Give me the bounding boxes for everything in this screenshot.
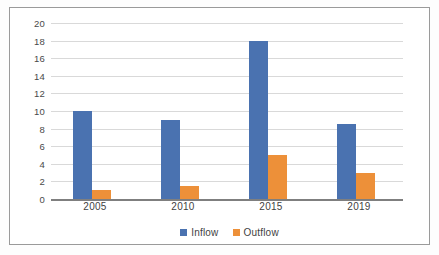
chart-legend: InflowOutflow	[10, 227, 439, 238]
y-axis-tick-label: 14	[34, 71, 45, 82]
legend-label: Inflow	[191, 227, 218, 238]
legend-item-inflow[interactable]: Inflow	[180, 227, 218, 238]
legend-swatch-inflow-icon	[180, 229, 187, 236]
chart-figure: 20181614121086420 2005201020152019 Inflo…	[0, 0, 439, 255]
y-axis-tick-label: 10	[34, 106, 45, 117]
legend-swatch-outflow-icon	[233, 229, 240, 236]
bar-group	[139, 23, 227, 199]
bar-inflow-2010[interactable]	[161, 120, 180, 199]
y-axis-tick-label: 2	[40, 176, 45, 187]
x-axis-tick-label-2019: 2019	[315, 201, 403, 212]
bar-outflow-2019[interactable]	[356, 173, 375, 199]
y-axis-tick-label: 18	[34, 36, 45, 47]
y-axis-tick-label: 20	[34, 18, 45, 29]
bar-inflow-2019[interactable]	[337, 124, 356, 199]
bar-inflow-2015[interactable]	[249, 41, 268, 199]
y-axis-tick-label: 0	[40, 194, 45, 205]
bar-group	[227, 23, 315, 199]
bars-wrapper	[51, 23, 403, 199]
y-axis-tick-label: 8	[40, 124, 45, 135]
bar-group	[51, 23, 139, 199]
y-axis-tick-label: 12	[34, 88, 45, 99]
x-axis-tick-label-2005: 2005	[51, 201, 139, 212]
legend-label: Outflow	[244, 227, 279, 238]
y-axis-tick-label: 4	[40, 159, 45, 170]
bar-outflow-2005[interactable]	[92, 190, 111, 199]
y-axis-tick-label: 6	[40, 141, 45, 152]
x-axis-tick-label-2010: 2010	[139, 201, 227, 212]
bar-inflow-2005[interactable]	[73, 111, 92, 199]
y-axis-tick-label: 16	[34, 53, 45, 64]
bars-layer	[51, 23, 403, 199]
x-axis-labels: 2005201020152019	[51, 201, 403, 212]
bar-outflow-2010[interactable]	[180, 186, 199, 199]
bar-group	[315, 23, 403, 199]
x-axis-tick-label-2015: 2015	[227, 201, 315, 212]
legend-item-outflow[interactable]: Outflow	[233, 227, 279, 238]
chart-frame: 20181614121086420 2005201020152019 Inflo…	[9, 7, 430, 245]
bar-outflow-2015[interactable]	[268, 155, 287, 199]
